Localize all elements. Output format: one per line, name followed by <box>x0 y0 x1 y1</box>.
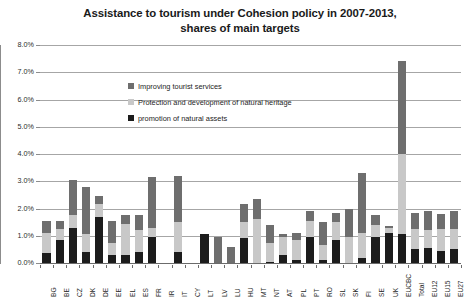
bar-group[interactable] <box>319 222 327 263</box>
y-axis-tick-mark <box>36 263 40 264</box>
bar-segment <box>214 237 222 263</box>
bar-segment <box>95 196 103 204</box>
bar-segment <box>332 213 340 223</box>
x-axis-tick-label: SL <box>339 289 346 297</box>
x-axis-tick-label: EU12 <box>431 281 438 298</box>
y-axis-tick-label: 6.0% <box>0 96 34 104</box>
bar-segment <box>279 234 287 237</box>
bar-group[interactable] <box>437 214 445 263</box>
x-axis-tick-label: SK <box>352 288 359 297</box>
legend-item[interactable]: Improving tourist services <box>128 78 292 94</box>
bar-group[interactable] <box>69 180 77 263</box>
bar-group[interactable] <box>253 199 261 263</box>
bar-segment <box>424 248 432 263</box>
bar-group[interactable] <box>174 176 182 263</box>
bar-segment <box>437 251 445 263</box>
bar-segment <box>108 221 116 243</box>
x-axis-tick-mark <box>422 265 423 268</box>
bar-segment <box>306 237 314 263</box>
bar-group[interactable] <box>385 226 393 263</box>
bar-group[interactable] <box>411 213 419 263</box>
bar-segment <box>437 229 445 251</box>
chart-title-line-1: Assistance to tourism under Cohesion pol… <box>40 6 440 21</box>
bar-segment <box>82 252 90 263</box>
x-axis-tick-label: SE <box>378 288 385 297</box>
bar-segment <box>437 214 445 229</box>
bar-segment <box>450 229 458 249</box>
bar-group[interactable] <box>279 234 287 263</box>
bar-segment <box>411 229 419 249</box>
bar-segment <box>95 204 103 216</box>
x-axis-tick-label: HU <box>247 287 254 297</box>
legend-item-label: Protection and development of natural he… <box>138 98 292 107</box>
bar-group[interactable] <box>200 234 208 263</box>
bar-group[interactable] <box>332 213 340 263</box>
bar-segment <box>411 213 419 229</box>
y-axis-tick-label: 8.0% <box>0 41 34 49</box>
bar-group[interactable] <box>227 247 235 263</box>
bar-segment <box>121 255 129 263</box>
bar-segment <box>385 233 393 263</box>
bar-group[interactable] <box>398 61 406 263</box>
x-axis-tick-mark <box>408 265 409 268</box>
x-axis-tick-mark <box>198 265 199 268</box>
bar-segment <box>292 260 300 263</box>
x-axis-tick-mark <box>369 265 370 268</box>
bar-group[interactable] <box>108 221 116 263</box>
bar-segment <box>266 225 274 243</box>
bar-group[interactable] <box>56 221 64 263</box>
bar-segment <box>279 255 287 263</box>
bar-segment <box>69 215 77 227</box>
x-axis-tick-mark <box>132 265 133 268</box>
bar-segment <box>69 180 77 215</box>
x-axis-tick-mark <box>251 265 252 268</box>
legend-item-label: promotion of natural assets <box>138 114 227 123</box>
bar-group[interactable] <box>148 177 156 263</box>
y-axis-tick-label: 2.0% <box>0 205 34 213</box>
x-axis-tick-label: EL <box>129 289 136 297</box>
bar-group[interactable] <box>95 196 103 263</box>
legend-item[interactable]: promotion of natural assets <box>128 110 292 126</box>
bar-segment <box>358 173 366 233</box>
bar-group[interactable] <box>424 211 432 263</box>
bar-group[interactable] <box>266 225 274 263</box>
bar-segment <box>411 249 419 263</box>
chart-title: Assistance to tourism under Cohesion pol… <box>40 6 440 36</box>
bar-group[interactable] <box>42 221 50 263</box>
x-axis-tick-label: Total <box>418 283 425 297</box>
bar-group[interactable] <box>135 215 143 263</box>
bar-group[interactable] <box>292 233 300 263</box>
bar-group[interactable] <box>345 209 353 264</box>
x-axis-tick-label: IT <box>181 291 188 297</box>
bar-group[interactable] <box>214 237 222 263</box>
x-axis-tick-mark <box>185 265 186 268</box>
bar-group[interactable] <box>371 215 379 263</box>
bar-segment <box>148 237 156 263</box>
legend-swatch-icon <box>128 99 134 105</box>
bar-group[interactable] <box>450 211 458 263</box>
x-axis-tick-mark <box>119 265 120 268</box>
bar-group[interactable] <box>358 173 366 263</box>
bar-segment <box>358 258 366 263</box>
x-axis-tick-mark <box>277 265 278 268</box>
bar-segment <box>227 247 235 263</box>
x-axis-tick-label: LV <box>221 289 228 297</box>
x-axis-tick-label: UK <box>392 288 399 297</box>
bar-group[interactable] <box>121 215 129 263</box>
bar-group[interactable] <box>306 211 314 263</box>
bar-segment <box>358 233 366 258</box>
bar-segment <box>174 176 182 222</box>
y-axis-tick-label: 3.0% <box>0 177 34 185</box>
bar-segment <box>240 238 248 263</box>
legend-item[interactable]: Protection and development of natural he… <box>128 94 292 110</box>
y-axis-tick-label: 0.0% <box>0 259 34 267</box>
bar-segment <box>174 222 182 252</box>
x-axis-line <box>40 263 461 264</box>
bar-segment <box>385 228 393 233</box>
x-axis-tick-label: ES <box>142 288 149 297</box>
bar-group[interactable] <box>240 204 248 263</box>
bar-group[interactable] <box>82 187 90 263</box>
x-axis-tick-label: BE <box>63 288 70 297</box>
bar-segment <box>56 229 64 240</box>
x-axis-tick-mark <box>343 265 344 268</box>
